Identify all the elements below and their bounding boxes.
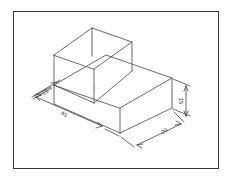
dimension-line-height <box>184 86 188 116</box>
riser-step-bottom-edge <box>94 71 132 103</box>
slab-top-face <box>54 55 172 108</box>
dimension-line-depth <box>137 121 181 148</box>
extension-line-length-end <box>105 129 119 136</box>
dimension-label-height: 15 <box>178 98 184 105</box>
extension-line-height-top <box>173 79 190 86</box>
riser-front-left-bottom-edge <box>54 85 94 103</box>
drawing-page: 15 45 15 20 <box>0 0 232 182</box>
extension-line-depth-start <box>121 137 134 147</box>
dimension-line-length <box>36 95 102 128</box>
extension-line-depth-end <box>174 112 184 122</box>
slab-bottom-left-edge <box>54 104 120 133</box>
isometric-drawing <box>0 0 232 182</box>
